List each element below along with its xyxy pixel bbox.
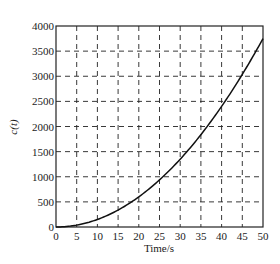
x-tick-label: 10 xyxy=(92,230,104,242)
x-tick-label: 35 xyxy=(195,230,207,242)
y-axis-ticks: 05001000150020002500300035004000 xyxy=(32,20,55,233)
line-chart: 05101520253035404550 0500100015002000250… xyxy=(0,0,280,264)
x-axis-label: Time/s xyxy=(144,242,174,254)
x-tick-label: 15 xyxy=(113,230,125,242)
x-tick-label: 20 xyxy=(133,230,145,242)
x-tick-label: 0 xyxy=(53,230,59,242)
y-tick-label: 3000 xyxy=(32,70,55,82)
y-tick-label: 1500 xyxy=(32,146,55,158)
y-tick-label: 1000 xyxy=(32,171,55,183)
y-tick-label: 2000 xyxy=(32,121,55,133)
grid-lines xyxy=(56,26,263,227)
y-tick-label: 2500 xyxy=(32,95,55,107)
x-tick-label: 5 xyxy=(74,230,80,242)
y-axis-label: c(t) xyxy=(7,119,20,135)
y-tick-label: 3500 xyxy=(32,45,55,57)
y-tick-label: 0 xyxy=(49,221,55,233)
x-tick-label: 40 xyxy=(216,230,228,242)
x-tick-label: 25 xyxy=(154,230,166,242)
x-tick-label: 30 xyxy=(175,230,187,242)
x-tick-label: 45 xyxy=(237,230,249,242)
x-tick-label: 50 xyxy=(258,230,270,242)
x-axis-ticks: 05101520253035404550 xyxy=(53,230,269,242)
y-tick-label: 500 xyxy=(38,196,55,208)
y-tick-label: 4000 xyxy=(32,20,55,32)
